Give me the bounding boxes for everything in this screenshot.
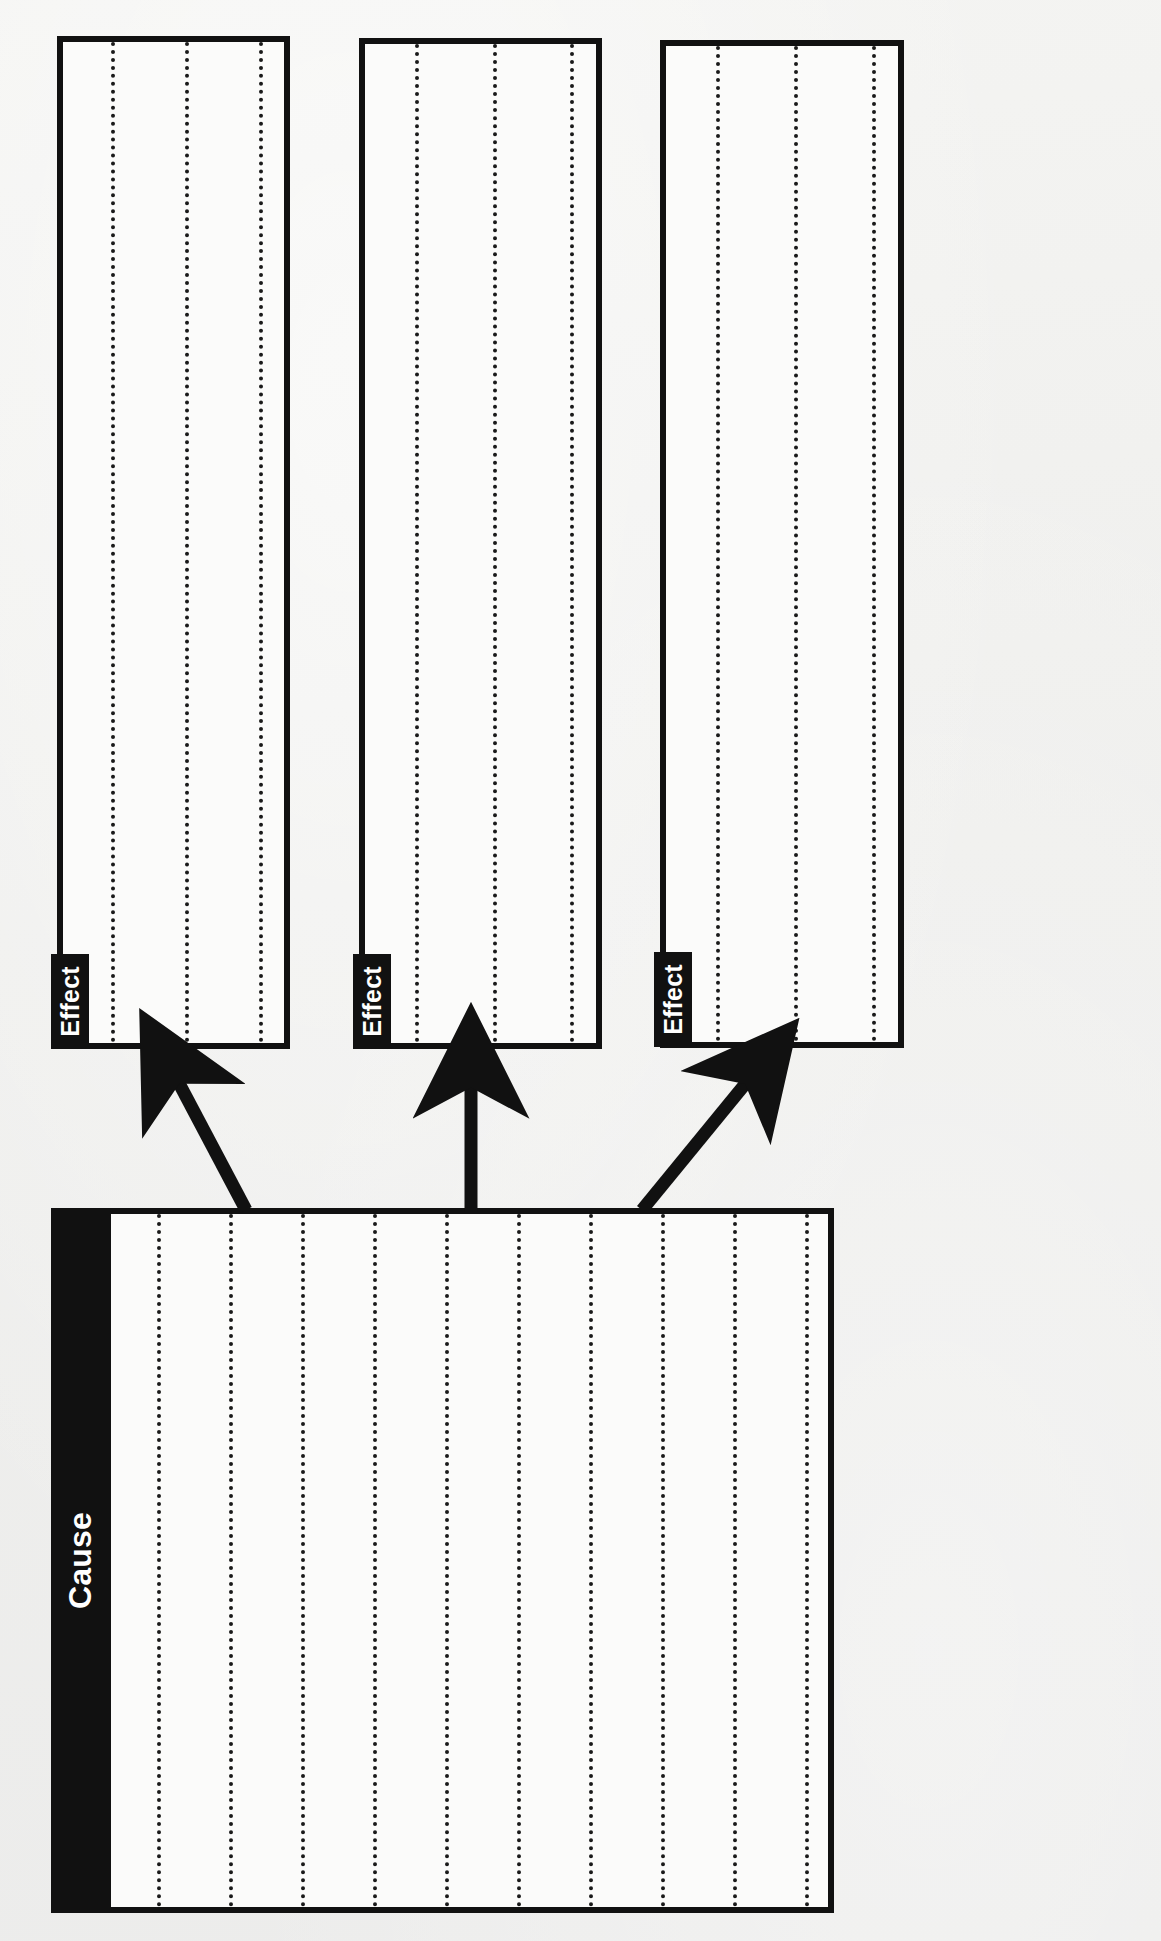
writing-rule-line — [733, 1214, 737, 1907]
writing-rule-line — [805, 1214, 809, 1907]
writing-rule-line — [517, 1214, 521, 1907]
writing-rule-line — [716, 46, 720, 1042]
effect-box-2-label-tab: Effect — [353, 954, 391, 1049]
effect-box-1-label-text: Effect — [56, 966, 85, 1037]
cause-and-effect-worksheet: Effect Effect Effect Cause — [0, 0, 1161, 1941]
writing-rule-line — [111, 42, 115, 1043]
writing-rule-line — [157, 1214, 161, 1907]
effect-box-1-label-tab: Effect — [51, 954, 89, 1049]
cause-box[interactable] — [57, 1208, 834, 1913]
writing-rule-line — [185, 42, 189, 1043]
writing-rule-line — [872, 46, 876, 1042]
arrow-cause-to-effect-1 — [0, 1050, 420, 1220]
writing-rule-line — [301, 1214, 305, 1907]
writing-rule-line — [373, 1214, 377, 1907]
writing-rule-line — [415, 44, 419, 1043]
writing-rule-line — [445, 1214, 449, 1907]
writing-rule-line — [259, 42, 263, 1043]
effect-box-2-label-text: Effect — [358, 966, 387, 1037]
writing-rule-line — [229, 1214, 233, 1907]
arrow-cause-to-effect-3 — [600, 1050, 900, 1220]
writing-rule-line — [794, 46, 798, 1042]
effect-box-2[interactable] — [359, 38, 602, 1049]
cause-box-label-tab: Cause — [51, 1208, 111, 1913]
effect-box-1[interactable] — [57, 36, 290, 1049]
cause-box-label-text: Cause — [63, 1512, 100, 1609]
effect-box-3-label-text: Effect — [659, 964, 688, 1035]
effect-box-3[interactable] — [660, 40, 904, 1048]
arrow-cause-to-effect-2 — [400, 1050, 600, 1220]
writing-rule-line — [570, 44, 574, 1043]
effect-box-3-label-tab: Effect — [654, 952, 692, 1047]
writing-rule-line — [589, 1214, 593, 1907]
writing-rule-line — [493, 44, 497, 1043]
writing-rule-line — [661, 1214, 665, 1907]
